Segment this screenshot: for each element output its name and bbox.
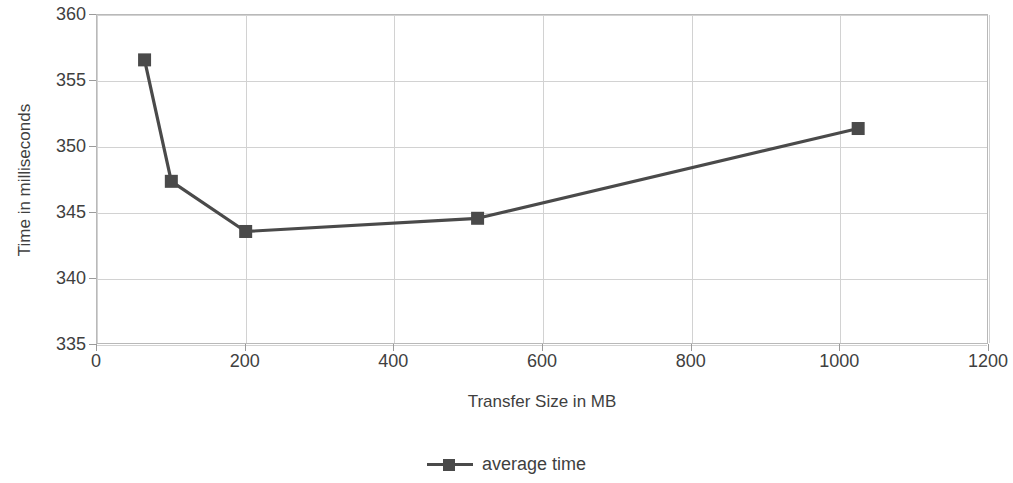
gridline-vertical <box>97 15 98 343</box>
x-tick-mark <box>96 344 97 351</box>
y-tick-mark <box>89 146 96 147</box>
x-tick-label: 600 <box>502 352 582 370</box>
gridline-vertical <box>246 15 247 343</box>
x-tick-mark <box>691 344 692 351</box>
gridline-vertical <box>543 15 544 343</box>
y-tick-mark <box>89 278 96 279</box>
y-tick-mark <box>89 80 96 81</box>
x-tick-label: 1000 <box>799 352 879 370</box>
y-tick-label: 355 <box>24 71 86 89</box>
x-tick-mark <box>988 344 989 351</box>
gridline-vertical <box>840 15 841 343</box>
y-tick-label: 335 <box>24 335 86 353</box>
line-chart: Time in milliseconds 335340345350355360 … <box>0 0 1013 483</box>
chart-legend: average time <box>0 455 1013 473</box>
y-tick-mark <box>89 212 96 213</box>
y-tick-mark <box>89 14 96 15</box>
data-point-marker <box>852 122 865 135</box>
gridline-horizontal <box>97 147 987 148</box>
y-tick-label: 345 <box>24 203 86 221</box>
gridline-horizontal <box>97 15 987 16</box>
x-tick-mark <box>393 344 394 351</box>
data-point-marker <box>165 175 178 188</box>
data-point-marker <box>138 53 151 66</box>
legend-square-marker-icon <box>443 459 455 471</box>
x-tick-label: 200 <box>205 352 285 370</box>
series-line <box>145 60 859 232</box>
gridline-horizontal <box>97 213 987 214</box>
gridline-horizontal <box>97 81 987 82</box>
x-tick-mark <box>839 344 840 351</box>
x-tick-label: 400 <box>353 352 433 370</box>
x-tick-label: 1200 <box>948 352 1013 370</box>
y-tick-mark <box>89 344 96 345</box>
gridline-vertical <box>989 15 990 343</box>
x-tick-label: 800 <box>651 352 731 370</box>
y-tick-label: 350 <box>24 137 86 155</box>
y-axis-title: Time in milliseconds <box>8 0 42 360</box>
x-tick-mark <box>542 344 543 351</box>
y-tick-label: 360 <box>24 5 86 23</box>
x-tick-mark <box>245 344 246 351</box>
x-tick-label: 0 <box>56 352 136 370</box>
y-tick-label: 340 <box>24 269 86 287</box>
legend-label-average-time: average time <box>482 455 586 473</box>
gridline-horizontal <box>97 279 987 280</box>
plot-area <box>96 14 988 344</box>
x-axis-title: Transfer Size in MB <box>96 392 988 412</box>
gridline-vertical <box>692 15 693 343</box>
legend-swatch-average-time <box>427 455 473 473</box>
gridline-vertical <box>394 15 395 343</box>
